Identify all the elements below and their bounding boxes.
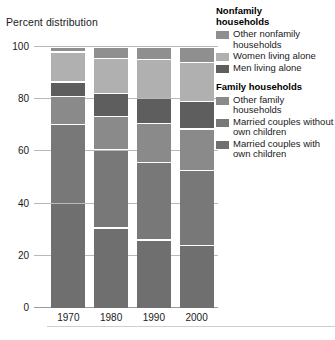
- legend-swatch-icon: [216, 53, 229, 61]
- plot-area: 020406080100: [47, 47, 218, 308]
- bar-segment: [137, 241, 171, 308]
- y-tick-label-0: 0: [23, 302, 29, 313]
- chart-legend: NonfamilyhouseholdsOther nonfamily house…: [216, 6, 335, 161]
- bar-segment: [137, 48, 171, 59]
- bar-segment: [180, 130, 214, 171]
- bar-segment: [51, 97, 85, 123]
- bar-segment: [94, 48, 128, 58]
- bar-segment: [51, 125, 85, 203]
- legend-item[interactable]: Other nonfamily households: [216, 29, 335, 50]
- bar-segment: [94, 117, 128, 149]
- bar-1990[interactable]: [137, 47, 171, 308]
- bar-segment: [137, 124, 171, 161]
- bar-1980[interactable]: [94, 47, 128, 308]
- bar-segment: [94, 151, 128, 228]
- bar-segment: [180, 63, 214, 100]
- bar-2000[interactable]: [180, 47, 214, 308]
- y-tick-label-60: 60: [18, 145, 29, 156]
- x-tick-label-1990: 1990: [133, 312, 175, 323]
- legend-group-title: Nonfamilyhouseholds: [216, 6, 335, 27]
- legend-swatch-icon: [216, 119, 229, 127]
- legend-item[interactable]: Married couples without own children: [216, 117, 335, 138]
- legend-item[interactable]: Men living alone: [216, 63, 335, 74]
- legend-swatch-icon: [216, 97, 229, 105]
- bar-segment: [180, 48, 214, 62]
- bar-segment: [180, 171, 214, 245]
- legend-item-label: Other family households: [233, 95, 335, 116]
- y-tick-label-20: 20: [18, 249, 29, 260]
- legend-group-title: Family households: [216, 82, 335, 93]
- bar-segment: [94, 59, 128, 93]
- legend-swatch-icon: [216, 141, 229, 149]
- chart-title: Percent distribution: [6, 16, 98, 28]
- x-tick-label-2000: 2000: [176, 312, 218, 323]
- y-tick-label-40: 40: [18, 197, 29, 208]
- y-tick-label-100: 100: [12, 41, 29, 52]
- bar-segment: [137, 60, 171, 98]
- legend-item-label: Married couples with own children: [233, 139, 335, 160]
- x-tick-label-1970: 1970: [47, 312, 89, 323]
- legend-item-label: Married couples without own children: [233, 117, 335, 138]
- y-tick-label-80: 80: [18, 93, 29, 104]
- x-axis-labels: 1970198019902000: [47, 312, 218, 326]
- legend-item-label: Other nonfamily households: [233, 29, 335, 50]
- bar-segment: [51, 83, 85, 96]
- bar-segment: [51, 53, 85, 82]
- bar-segment: [51, 204, 85, 308]
- bar-segment: [51, 48, 85, 51]
- bar-segment: [180, 102, 214, 129]
- legend-item[interactable]: Women living alone: [216, 51, 335, 62]
- bar-segment: [137, 99, 171, 123]
- bar-1970[interactable]: [51, 47, 85, 308]
- chart-figure: Percent distribution 020406080100 197019…: [0, 0, 335, 340]
- legend-swatch-icon: [216, 65, 229, 73]
- bar-segment: [94, 229, 128, 308]
- legend-swatch-icon: [216, 31, 229, 39]
- legend-item[interactable]: Married couples with own children: [216, 139, 335, 160]
- bar-segment: [180, 246, 214, 308]
- footer-divider: [47, 326, 335, 327]
- bar-segment: [137, 163, 171, 240]
- bar-segment: [94, 94, 128, 115]
- legend-item-label: Men living alone: [233, 63, 302, 74]
- legend-item-label: Women living alone: [233, 51, 316, 62]
- legend-item[interactable]: Other family households: [216, 95, 335, 116]
- x-tick-label-1980: 1980: [90, 312, 132, 323]
